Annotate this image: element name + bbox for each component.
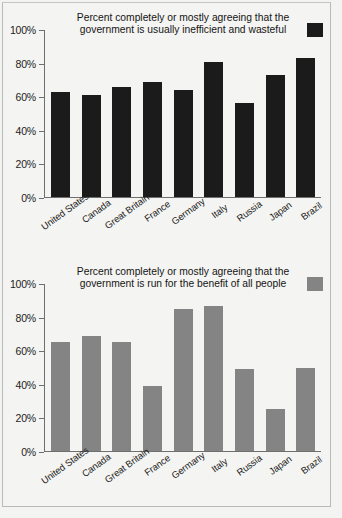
bar-slot [168,30,199,197]
bar-slot [290,30,321,197]
y-tick-label-100-top: 100% [10,24,36,36]
x-tick-label: Japan [260,200,291,254]
bar-brazil-bottom [296,368,315,452]
y-tick-60-top [39,97,44,98]
y-tick-label-20-bottom: 20% [16,412,36,424]
chart-benefit-of-all-people: Percent completely or mostly agreeing th… [3,261,333,509]
bar-slot [229,30,260,197]
y-tick-80-top [39,64,44,65]
bar-great-britain-top [112,87,131,197]
bar-germany-top [174,90,193,197]
bar-slot [137,284,168,451]
y-tick-label-40-top: 40% [16,125,36,137]
y-tick-label-0-top: 0% [21,192,36,204]
bar-japan-bottom [266,409,285,451]
plot-area-bottom: 100% 80% 60% 40% 20% [44,284,321,452]
chart-title-bottom-line1: Percent completely or mostly agreeing th… [65,266,301,278]
bar-russia-top [235,103,254,197]
bar-slot [260,30,291,197]
y-tick-20-bottom [39,418,44,419]
bar-italy-top [204,62,223,197]
page-root: Percent completely or mostly agreeing th… [0,0,342,518]
bar-group-top [45,30,321,197]
x-tick-label: Brazil [290,200,321,254]
x-tick-label: United States [45,200,76,254]
bar-slot [137,30,168,197]
chart-inefficient-wasteful: Percent completely or mostly agreeing th… [3,7,333,259]
y-tick-20-top [39,164,44,165]
bar-germany-bottom [174,309,193,451]
x-tick-label: Germany [168,454,199,508]
x-tick-label: Italy [198,200,229,254]
y-tick-label-40-bottom: 40% [16,379,36,391]
bar-united-states-top [51,92,70,197]
y-tick-label-80-top: 80% [16,58,36,70]
bar-italy-bottom [204,306,223,451]
bar-slot [106,30,137,197]
x-tick-label: Japan [260,454,291,508]
bar-slot [290,284,321,451]
x-tick-label: Great Britain [106,454,137,508]
y-tick-40-bottom [39,385,44,386]
y-tick-label-0-bottom: 0% [21,446,36,458]
x-tick-label: Brazil [290,454,321,508]
bar-slot [198,30,229,197]
bar-slot [229,284,260,451]
x-tick-label-text: Brazil [298,200,323,223]
y-tick-label-60-top: 60% [16,91,36,103]
chart-title-top-line1: Percent completely or mostly agreeing th… [65,12,301,24]
bar-slot [45,30,76,197]
x-tick-label: Russia [229,454,260,508]
bar-slot [76,30,107,197]
bar-russia-bottom [235,369,254,451]
bar-slot [106,284,137,451]
y-tick-100-top [39,30,44,31]
x-tick-label: France [137,200,168,254]
y-tick-label-100-bottom: 100% [10,278,36,290]
x-tick-label-text: Brazil [298,454,323,477]
x-tick-label: France [137,454,168,508]
bar-slot [260,284,291,451]
x-tick-label: United States [45,454,76,508]
y-tick-60-bottom [39,351,44,352]
x-tick-labels-top: United StatesCanadaGreat BritainFranceGe… [45,200,321,254]
x-tick-label: Canada [76,200,107,254]
bar-canada-bottom [82,336,101,451]
plot-area-top: 100% 80% 60% 40% 20% [44,30,321,198]
y-tick-80-bottom [39,318,44,319]
bar-france-bottom [143,386,162,451]
y-tick-label-80-bottom: 80% [16,312,36,324]
bar-group-bottom [45,284,321,451]
bar-slot [168,284,199,451]
x-tick-labels-bottom: United StatesCanadaGreat BritainFranceGe… [45,454,321,508]
bar-great-britain-bottom [112,342,131,451]
bar-slot [45,284,76,451]
bar-brazil-top [296,58,315,197]
y-tick-0-top [39,198,44,199]
bar-united-states-bottom [51,342,70,451]
y-tick-label-60-bottom: 60% [16,345,36,357]
page-frame: Percent completely or mostly agreeing th… [2,2,331,507]
bar-canada-top [82,95,101,197]
y-tick-40-top [39,131,44,132]
bar-france-top [143,82,162,197]
x-tick-label: Russia [229,200,260,254]
bar-japan-top [266,75,285,197]
x-tick-label: Germany [168,200,199,254]
x-tick-label-text: Italy [209,201,229,220]
x-tick-label: Canada [76,454,107,508]
y-tick-0-bottom [39,452,44,453]
bar-slot [198,284,229,451]
y-tick-100-bottom [39,284,44,285]
y-tick-label-20-top: 20% [16,158,36,170]
x-tick-label: Great Britain [106,200,137,254]
x-tick-label: Italy [198,454,229,508]
x-tick-label-text: Italy [209,455,229,474]
bar-slot [76,284,107,451]
